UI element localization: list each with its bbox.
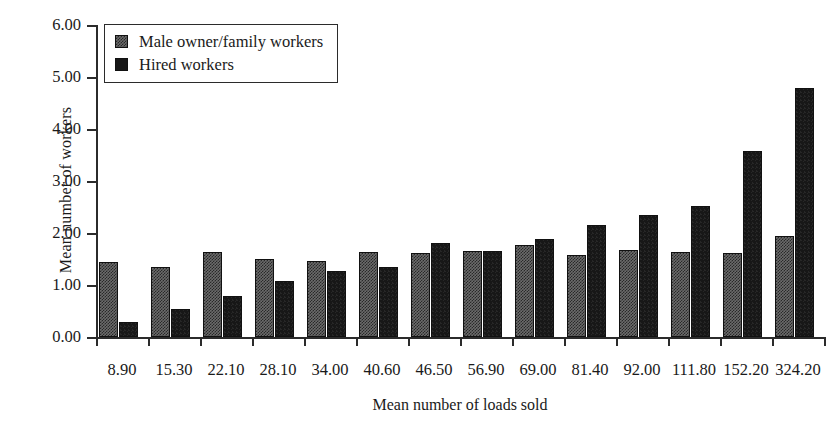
x-tick-label: 152.20 bbox=[723, 360, 768, 380]
bar-hired-workers bbox=[119, 322, 138, 337]
bar-male-owner-family-workers bbox=[723, 253, 742, 337]
bar-male-owner-family-workers bbox=[255, 259, 274, 337]
bar-group bbox=[512, 25, 564, 337]
x-tick-label: 8.90 bbox=[108, 360, 137, 380]
x-tick bbox=[824, 337, 826, 346]
y-tick: 3.00 bbox=[87, 181, 96, 183]
y-tick: 1.00 bbox=[87, 285, 96, 287]
bar-hired-workers bbox=[639, 215, 658, 337]
bar-hired-workers bbox=[743, 151, 762, 337]
y-tick: 5.00 bbox=[87, 77, 96, 79]
legend-item-label: Hired workers bbox=[139, 55, 234, 75]
x-tick bbox=[96, 337, 98, 346]
x-tick-label: 92.00 bbox=[623, 360, 660, 380]
bar-male-owner-family-workers bbox=[99, 262, 118, 337]
x-tick bbox=[148, 337, 150, 346]
x-axis-title: Mean number of loads sold bbox=[96, 396, 824, 414]
x-tick-label: 46.50 bbox=[415, 360, 452, 380]
x-tick bbox=[252, 337, 254, 346]
chart-legend: Male owner/family workersHired workers bbox=[104, 24, 338, 83]
x-tick bbox=[564, 337, 566, 346]
bar-group bbox=[564, 25, 616, 337]
x-tick-label: 34.00 bbox=[311, 360, 348, 380]
y-tick: 6.00 bbox=[87, 25, 96, 27]
x-tick-label: 81.40 bbox=[571, 360, 608, 380]
y-tick-label: 2.00 bbox=[52, 223, 81, 243]
y-tick-label: 6.00 bbox=[52, 15, 81, 35]
x-tick-label: 111.80 bbox=[672, 360, 716, 380]
legend-swatch-hired-workers-icon bbox=[115, 58, 128, 71]
y-tick: 4.00 bbox=[87, 129, 96, 131]
x-tick-label: 28.10 bbox=[259, 360, 296, 380]
bar-hired-workers bbox=[795, 88, 814, 337]
bar-group bbox=[720, 25, 772, 337]
legend-item: Male owner/family workers bbox=[115, 30, 323, 53]
bar-group bbox=[616, 25, 668, 337]
y-tick-label: 3.00 bbox=[52, 171, 81, 191]
bar-male-owner-family-workers bbox=[671, 252, 690, 337]
x-tick-label: 40.60 bbox=[363, 360, 400, 380]
bar-group bbox=[772, 25, 824, 337]
bar-hired-workers bbox=[587, 225, 606, 337]
y-tick-label: 1.00 bbox=[52, 275, 81, 295]
x-tick bbox=[512, 337, 514, 346]
bar-male-owner-family-workers bbox=[411, 253, 430, 337]
x-tick bbox=[720, 337, 722, 346]
bar-hired-workers bbox=[223, 296, 242, 337]
x-tick-label: 22.10 bbox=[207, 360, 244, 380]
bar-hired-workers bbox=[431, 243, 450, 337]
bar-male-owner-family-workers bbox=[307, 261, 326, 337]
x-tick-label: 15.30 bbox=[155, 360, 192, 380]
bar-hired-workers bbox=[275, 281, 294, 337]
bar-group bbox=[460, 25, 512, 337]
y-tick: 2.00 bbox=[87, 233, 96, 235]
bar-hired-workers bbox=[535, 239, 554, 337]
bar-group bbox=[668, 25, 720, 337]
bar-group bbox=[356, 25, 408, 337]
x-tick bbox=[616, 337, 618, 346]
bar-male-owner-family-workers bbox=[567, 255, 586, 337]
x-tick bbox=[304, 337, 306, 346]
bar-male-owner-family-workers bbox=[515, 245, 534, 337]
bar-male-owner-family-workers bbox=[151, 267, 170, 337]
bar-male-owner-family-workers bbox=[359, 252, 378, 337]
x-tick bbox=[356, 337, 358, 346]
x-tick-label: 56.90 bbox=[467, 360, 504, 380]
y-tick: 0.00 bbox=[87, 337, 96, 339]
bar-hired-workers bbox=[171, 309, 190, 337]
bar-male-owner-family-workers bbox=[619, 250, 638, 337]
bar-male-owner-family-workers bbox=[203, 252, 222, 337]
bar-hired-workers bbox=[379, 267, 398, 337]
y-tick-label: 5.00 bbox=[52, 67, 81, 87]
legend-item: Hired workers bbox=[115, 53, 323, 76]
x-tick-label: 324.20 bbox=[775, 360, 820, 380]
bar-chart-figure: Mean number of workers 0.001.002.003.004… bbox=[0, 0, 832, 434]
y-tick-label: 4.00 bbox=[52, 119, 81, 139]
bar-male-owner-family-workers bbox=[775, 236, 794, 337]
y-tick-label: 0.00 bbox=[52, 327, 81, 347]
bar-group bbox=[408, 25, 460, 337]
legend-item-label: Male owner/family workers bbox=[139, 32, 323, 52]
legend-swatch-male-owner-family-workers-icon bbox=[115, 35, 128, 48]
x-tick bbox=[408, 337, 410, 346]
x-tick bbox=[200, 337, 202, 346]
bar-hired-workers bbox=[327, 271, 346, 337]
bar-male-owner-family-workers bbox=[463, 251, 482, 337]
x-tick bbox=[668, 337, 670, 346]
x-tick bbox=[460, 337, 462, 346]
bar-hired-workers bbox=[483, 251, 502, 337]
x-tick bbox=[772, 337, 774, 346]
x-tick-label: 69.00 bbox=[519, 360, 556, 380]
bar-hired-workers bbox=[691, 206, 710, 337]
